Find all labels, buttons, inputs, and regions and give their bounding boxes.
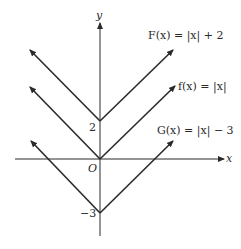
x-axis-label: x [226, 152, 232, 165]
graph-f [30, 86, 175, 159]
tick-label-neg3: −3 [80, 207, 96, 220]
graph-G [31, 141, 173, 213]
label-G: G(x) = |x| − 3 [157, 124, 234, 137]
origin-label: O [88, 162, 97, 175]
label-F: F(x) = |x| + 2 [148, 29, 223, 42]
tick-label-2: 2 [89, 121, 96, 134]
label-f: f(x) = |x| [178, 80, 227, 93]
y-axis-label: y [96, 9, 102, 22]
graph-F [30, 50, 173, 121]
